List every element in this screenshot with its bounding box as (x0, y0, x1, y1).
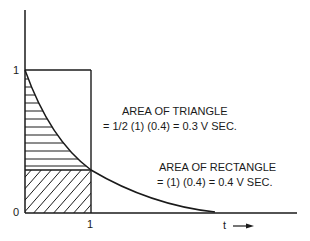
triangle-area-formula: = 1/2 (1) (0.4) = 0.3 V SEC. (103, 119, 237, 134)
y-tick-1: 1 (13, 64, 19, 76)
unit-rectangle (25, 70, 91, 213)
x-tick-1: 1 (87, 218, 93, 230)
triangle-hatch (25, 79, 95, 166)
x-axis-label: t (223, 219, 226, 231)
right-arrow-icon (233, 224, 254, 229)
triangle-area-title: AREA OF TRIANGLE (122, 104, 228, 119)
rectangle-area-formula: = (1) (0.4) = 0.4 V SEC. (157, 175, 273, 190)
y-tick-0: 0 (13, 206, 19, 218)
rectangle-area-title: AREA OF RECTANGLE (159, 160, 276, 175)
